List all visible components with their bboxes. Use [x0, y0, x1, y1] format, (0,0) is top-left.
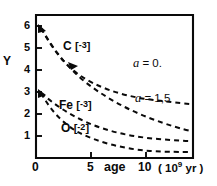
- curve-label-o-name: O: [61, 121, 70, 135]
- curve-label-fe-name: Fe: [59, 98, 73, 112]
- x-axis-units: ( 109 yr ): [158, 161, 203, 174]
- figure-container: 6 5 4 3 2 1 Y 0 5 10 age ( 109 yr ) C [-…: [0, 0, 217, 186]
- x-units-base: ( 10: [158, 162, 178, 174]
- y-tick-label-5: 5: [16, 42, 30, 53]
- alpha-symbol-1-5: a: [135, 91, 141, 105]
- curve-label-o: O [-2]: [61, 122, 89, 134]
- y-tick-label-4: 4: [16, 64, 30, 75]
- y-tick-label-1: 1: [16, 130, 30, 141]
- curve-label-c-exponent: -3: [79, 40, 87, 50]
- y-tick-label-2: 2: [16, 108, 30, 119]
- y-tick-label-3: 3: [16, 86, 30, 97]
- alpha-value-1-5: = 1,5: [144, 92, 170, 104]
- y-axis-title: Y: [3, 55, 11, 67]
- curve-label-c-bracket-close: ]: [87, 40, 91, 52]
- x-units-exponent: 9: [178, 160, 182, 169]
- curve-label-c-name: C: [63, 39, 72, 53]
- chart-plot-area: [0, 0, 217, 186]
- x-tick-label-0: 0: [32, 161, 39, 173]
- curve-label-fe-exponent: -3: [80, 99, 88, 109]
- alpha-symbol-0: a: [133, 56, 139, 70]
- curve-label-fe: Fe [-3]: [59, 99, 92, 111]
- curve-label-fe-bracket-close: ]: [88, 99, 92, 111]
- y-tick-label-6: 6: [16, 20, 30, 31]
- x-tick-label-10: 10: [138, 161, 151, 173]
- axes-frame: [36, 15, 193, 158]
- annotation-alpha-0: a = 0.: [133, 57, 162, 70]
- curve-label-c: C [-3]: [63, 40, 90, 52]
- alpha-value-0: = 0.: [142, 57, 162, 69]
- x-units-tail: yr ): [185, 162, 203, 174]
- curve-label-o-bracket-close: ]: [85, 122, 89, 134]
- x-axis-title: age: [104, 161, 126, 174]
- curve-origin-arrowheads: [38, 24, 46, 98]
- annotation-alpha-1-5: a = 1,5: [135, 92, 170, 105]
- x-tick-label-5: 5: [87, 161, 94, 173]
